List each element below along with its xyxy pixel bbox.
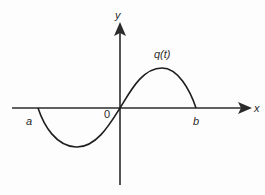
y-axis-label: y — [114, 9, 122, 21]
x-axis-label: x — [253, 102, 260, 114]
left-root-label-a: a — [26, 115, 32, 127]
graph-canvas: y x q(t) a 0 b — [0, 0, 265, 195]
function-graph-figure: y x q(t) a 0 b — [0, 0, 265, 195]
x-axis — [12, 102, 252, 114]
right-root-label-b: b — [193, 115, 199, 127]
y-axis — [114, 22, 126, 185]
origin-label: 0 — [104, 108, 110, 120]
curve-label: q(t) — [154, 48, 171, 60]
